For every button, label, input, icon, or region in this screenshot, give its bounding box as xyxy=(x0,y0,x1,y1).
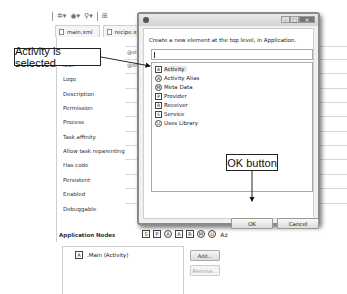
callout-arrows xyxy=(0,0,347,294)
